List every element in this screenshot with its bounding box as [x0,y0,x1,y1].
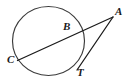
circle-shape [13,7,85,76]
geometry-canvas [0,0,132,83]
vertex-label-a: A [115,6,122,17]
geometry-figure: A B C T [0,0,132,83]
vertex-label-b: B [63,21,70,32]
vertex-label-t: T [77,67,84,78]
vertex-label-c: C [7,54,14,65]
